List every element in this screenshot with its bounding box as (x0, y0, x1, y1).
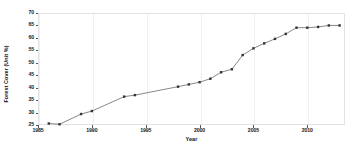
x-axis-title: Year (38, 136, 345, 142)
x-axis-tick-label: 2000 (194, 128, 205, 133)
x-axis-tick-mark (307, 125, 308, 128)
x-axis-tick-mark (38, 125, 39, 128)
x-axis-tick-mark (200, 125, 201, 128)
x-axis-ticks: 198519901995200020052010 (0, 0, 361, 147)
x-axis-tick-label: 2010 (302, 128, 313, 133)
x-axis-tick-label: 1990 (86, 128, 97, 133)
x-axis-tick-mark (253, 125, 254, 128)
forest-cover-line-chart: Forest Cover (Unit %) 253035404550556065… (0, 0, 361, 147)
x-axis-tick-label: 1995 (140, 128, 151, 133)
x-axis-tick-mark (146, 125, 147, 128)
x-axis-tick-label: 1985 (32, 128, 43, 133)
x-axis-tick-mark (92, 125, 93, 128)
x-axis-tick-label: 2005 (248, 128, 259, 133)
